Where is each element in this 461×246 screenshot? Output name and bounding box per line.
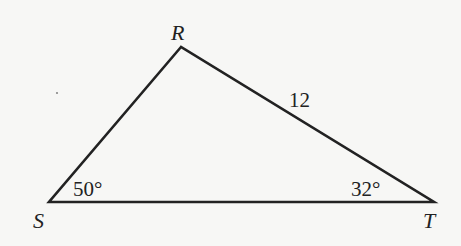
triangle-diagram: R S T 12 50° 32° — [0, 0, 461, 246]
side-length-rt: 12 — [289, 88, 310, 112]
triangle-svg: R S T 12 50° 32° — [0, 0, 461, 246]
angle-label-t: 32° — [351, 177, 380, 201]
vertex-label-t: T — [423, 208, 437, 233]
angle-label-s: 50° — [73, 177, 102, 201]
vertex-label-s: S — [33, 208, 44, 233]
vertex-label-r: R — [170, 20, 185, 45]
stray-dot — [56, 92, 58, 94]
